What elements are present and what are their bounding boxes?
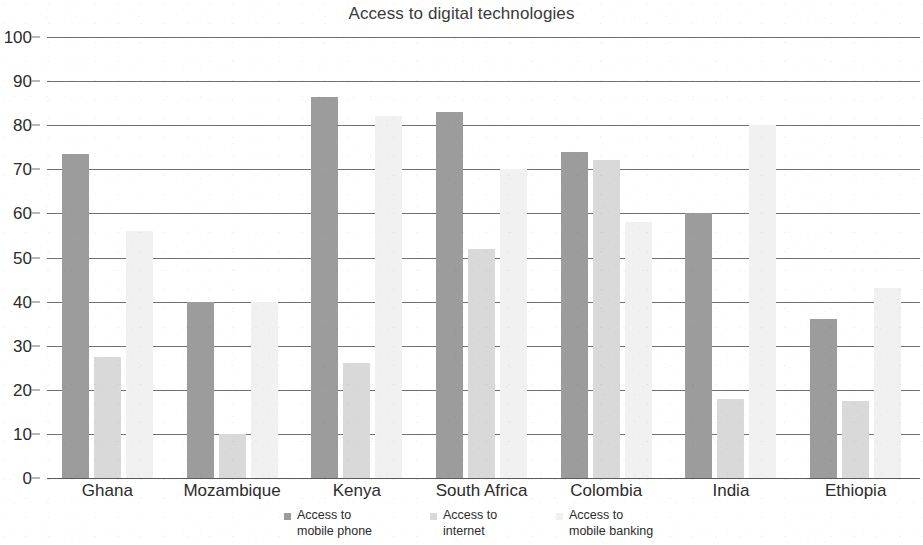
y-tick-label-20: 20: [13, 381, 32, 398]
y-tick-label-50: 50: [13, 249, 32, 266]
bar[interactable]: [126, 231, 153, 478]
y-tick-label-10: 10: [13, 425, 32, 442]
y-tick-label-80: 80: [13, 117, 32, 134]
x-axis-label-mozambique: Mozambique: [183, 481, 280, 501]
bar[interactable]: [842, 401, 869, 478]
bar[interactable]: [810, 319, 837, 478]
y-axis: 1009080706050403020100: [0, 37, 40, 478]
bar[interactable]: [593, 160, 620, 478]
bar-group-colombia: [561, 37, 652, 478]
bar-group-kenya: [311, 37, 402, 478]
bar[interactable]: [62, 154, 89, 478]
chart-container: Access to digital technologies 100908070…: [0, 0, 923, 545]
bar[interactable]: [251, 302, 278, 478]
bar[interactable]: [94, 357, 121, 478]
y-tick-label-100: 100: [4, 29, 32, 46]
y-tick-mark-70: [32, 169, 40, 170]
bar-group-south-africa: [436, 37, 527, 478]
bar-group-mozambique: [187, 37, 278, 478]
y-tick-mark-10: [32, 433, 40, 434]
bar[interactable]: [436, 112, 463, 478]
bars-layer: [47, 37, 920, 478]
y-tick-label-70: 70: [13, 161, 32, 178]
bar[interactable]: [375, 116, 402, 478]
bar[interactable]: [625, 222, 652, 478]
y-tick-mark-40: [32, 301, 40, 302]
y-tick-mark-60: [32, 213, 40, 214]
x-axis-label-ghana: Ghana: [82, 481, 133, 501]
y-tick-label-0: 0: [23, 470, 32, 487]
x-axis-category-labels: GhanaMozambiqueKenyaSouth AfricaColombia…: [47, 481, 920, 507]
y-tick-mark-100: [32, 37, 40, 38]
legend-item[interactable]: Access to mobile phone: [284, 508, 372, 539]
bar[interactable]: [187, 302, 214, 478]
bar[interactable]: [219, 434, 246, 478]
x-axis-label-ethiopia: Ethiopia: [825, 481, 886, 501]
bar[interactable]: [685, 213, 712, 478]
y-tick-mark-20: [32, 389, 40, 390]
bar[interactable]: [311, 97, 338, 478]
legend-swatch-icon: [556, 513, 563, 520]
y-tick-mark-80: [32, 125, 40, 126]
bar[interactable]: [343, 363, 370, 478]
legend-label: Access to internet: [443, 508, 497, 539]
bar[interactable]: [749, 125, 776, 478]
y-tick-label-40: 40: [13, 293, 32, 310]
legend-item[interactable]: Access to internet: [430, 508, 497, 539]
bar[interactable]: [500, 169, 527, 478]
bar-group-ethiopia: [810, 37, 901, 478]
bar-group-india: [685, 37, 776, 478]
x-axis-label-colombia: Colombia: [570, 481, 642, 501]
bar[interactable]: [717, 399, 744, 478]
y-tick-mark-50: [32, 257, 40, 258]
chart-title: Access to digital technologies: [0, 4, 923, 24]
bar[interactable]: [468, 249, 495, 478]
y-tick-mark-90: [32, 81, 40, 82]
legend-swatch-icon: [284, 513, 291, 520]
chart-legend: Access to mobile phoneAccess to internet…: [284, 508, 704, 542]
y-tick-label-60: 60: [13, 205, 32, 222]
bar[interactable]: [874, 288, 901, 478]
y-tick-label-90: 90: [13, 73, 32, 90]
legend-label: Access to mobile phone: [297, 508, 372, 539]
x-axis-label-india: India: [712, 481, 749, 501]
bar[interactable]: [561, 152, 588, 478]
x-axis-label-kenya: Kenya: [333, 481, 381, 501]
y-tick-label-30: 30: [13, 337, 32, 354]
legend-swatch-icon: [430, 513, 437, 520]
x-axis-label-south-africa: South Africa: [436, 481, 528, 501]
bar-group-ghana: [62, 37, 153, 478]
gridline-0: [47, 478, 920, 479]
legend-item[interactable]: Access to mobile banking: [556, 508, 653, 539]
legend-label: Access to mobile banking: [569, 508, 653, 539]
y-tick-mark-30: [32, 345, 40, 346]
y-tick-mark-0: [32, 478, 40, 479]
